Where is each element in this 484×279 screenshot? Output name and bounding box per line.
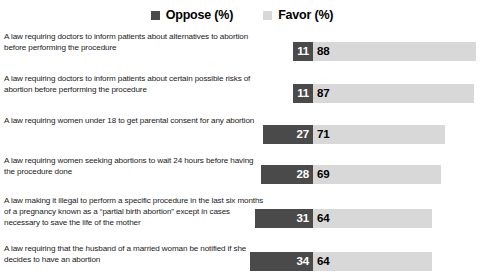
bar-value-favor: 64 (317, 213, 329, 225)
bar-value-favor: 87 (317, 88, 329, 100)
bar-value-favor: 88 (317, 46, 329, 58)
legend-entry-oppose: Oppose (%) (151, 9, 233, 22)
bar-oppose: 34 (250, 252, 313, 271)
bar-value-oppose: 31 (297, 213, 309, 225)
bar-favor: 88 (313, 42, 476, 61)
bar-favor: 64 (313, 209, 432, 228)
bar-favor: 87 (313, 84, 474, 103)
bar-oppose: 11 (293, 84, 313, 103)
chart-row: A law requiring doctors to inform patien… (0, 31, 484, 71)
bar-value-oppose: 34 (297, 256, 309, 268)
chart-row: A law requiring doctors to inform patien… (0, 73, 484, 113)
bar-oppose: 11 (293, 42, 313, 61)
bar-oppose: 27 (263, 125, 313, 144)
bar-value-oppose: 28 (297, 169, 309, 181)
chart-legend: Oppose (%) Favor (%) (0, 5, 484, 25)
legend-label-oppose: Oppose (%) (166, 9, 233, 22)
chart-row: A law making it illegal to perform a spe… (0, 195, 484, 241)
square-swatch-dark-icon (151, 11, 160, 20)
bar-value-oppose: 27 (297, 129, 309, 141)
bar-value-favor: 69 (317, 169, 329, 181)
bar-favor: 71 (313, 125, 445, 144)
square-swatch-light-icon (263, 11, 272, 20)
row-bars: 1187 (0, 73, 484, 113)
bar-value-favor: 71 (317, 129, 329, 141)
bar-value-favor: 64 (317, 256, 329, 268)
bar-chart: A law requiring doctors to inform patien… (0, 27, 484, 279)
bar-oppose: 28 (261, 165, 313, 184)
row-bars: 1188 (0, 31, 484, 71)
row-bars: 3464 (0, 243, 484, 279)
legend-entry-favor: Favor (%) (263, 9, 333, 22)
chart-row: A law requiring women seeking abortions … (0, 155, 484, 193)
bar-favor: 64 (313, 252, 432, 271)
legend-label-favor: Favor (%) (278, 9, 333, 22)
bar-favor: 69 (313, 165, 441, 184)
bar-oppose: 31 (255, 209, 313, 228)
row-bars: 2869 (0, 155, 484, 193)
chart-row: A law requiring women under 18 to get pa… (0, 115, 484, 153)
chart-row: A law requiring that the husband of a ma… (0, 243, 484, 279)
row-bars: 3164 (0, 195, 484, 241)
bar-value-oppose: 11 (297, 88, 309, 100)
bar-value-oppose: 11 (297, 46, 309, 58)
row-bars: 2771 (0, 115, 484, 153)
